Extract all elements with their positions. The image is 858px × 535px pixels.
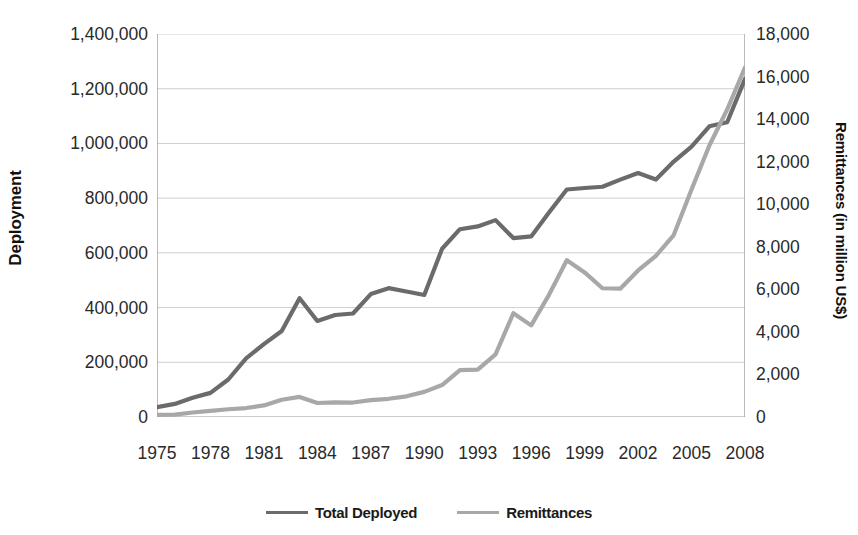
y-axis-left-tick-label: 400,000 bbox=[85, 297, 148, 318]
y-axis-left-tick-label: 0 bbox=[138, 407, 148, 428]
legend-item[interactable]: Total Deployed bbox=[266, 504, 417, 521]
x-axis-tick-label: 2008 bbox=[726, 443, 765, 464]
y-axis-right-tick-label: 0 bbox=[756, 407, 766, 428]
plot-svg bbox=[157, 34, 745, 417]
x-axis-tick-label: 2005 bbox=[672, 443, 711, 464]
x-axis-tick-label: 1978 bbox=[191, 443, 230, 464]
legend-item[interactable]: Remittances bbox=[457, 504, 592, 521]
legend-item-label: Total Deployed bbox=[315, 504, 417, 521]
x-axis-tick-label: 1999 bbox=[565, 443, 604, 464]
y-axis-left-tick-label: 1,200,000 bbox=[70, 78, 148, 99]
x-axis-tick-label: 2002 bbox=[619, 443, 658, 464]
x-axis-tick-label: 1984 bbox=[298, 443, 337, 464]
y-axis-right-tick-label: 14,000 bbox=[756, 109, 810, 130]
y-axis-right-tick-label: 6,000 bbox=[756, 279, 800, 300]
y-axis-right-tick-label: 2,000 bbox=[756, 364, 800, 385]
y-axis-right-tick-label: 4,000 bbox=[756, 321, 800, 342]
y-axis-right-tick-label: 18,000 bbox=[756, 24, 810, 45]
x-axis-tick-label: 1987 bbox=[351, 443, 390, 464]
x-axis-tick-label: 1981 bbox=[244, 443, 283, 464]
y-axis-left-tick-label: 1,400,000 bbox=[70, 24, 148, 45]
x-axis-tick-label: 1993 bbox=[458, 443, 497, 464]
y-axis-left-tick-label: 800,000 bbox=[85, 188, 148, 209]
y-axis-right-tick-label: 16,000 bbox=[756, 66, 810, 87]
chart-container: Deployment Remittances (in million US$) … bbox=[0, 0, 858, 535]
series-line-total-deployed bbox=[157, 79, 745, 407]
y-axis-left-tick-label: 600,000 bbox=[85, 242, 148, 263]
y-axis-right-title-text: Remittances (in million US$) bbox=[833, 122, 850, 319]
y-axis-left-tick-label: 200,000 bbox=[85, 352, 148, 373]
legend-line-swatch bbox=[266, 511, 308, 514]
y-axis-left-tick-label: 1,000,000 bbox=[70, 133, 148, 154]
y-axis-right-title: Remittances (in million US$) bbox=[824, 10, 858, 430]
y-axis-right-tick-label: 8,000 bbox=[756, 236, 800, 257]
y-axis-right-tick-label: 12,000 bbox=[756, 151, 810, 172]
x-axis-tick-label: 1996 bbox=[512, 443, 551, 464]
plot-area bbox=[157, 34, 745, 417]
y-axis-right-tick-label: 10,000 bbox=[756, 194, 810, 215]
x-axis-ticks: 1975197819811984198719901993199619992002… bbox=[0, 443, 858, 471]
legend-item-label: Remittances bbox=[506, 504, 592, 521]
x-axis-tick-label: 1975 bbox=[138, 443, 177, 464]
x-axis-tick-label: 1990 bbox=[405, 443, 444, 464]
legend-line-swatch bbox=[457, 511, 499, 514]
chart-legend: Total DeployedRemittances bbox=[0, 496, 858, 528]
